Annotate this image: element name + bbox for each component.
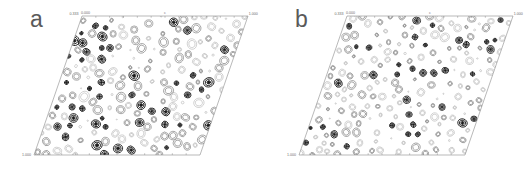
figure-container: a 0.3330.0001.0001.000c b 0.3330.0001.00… (0, 0, 529, 171)
svg-text:c: c (164, 11, 166, 15)
panel-a: a 0.3330.0001.0001.000c (0, 0, 264, 171)
svg-text:0.333: 0.333 (335, 12, 344, 16)
svg-text:0.000: 0.000 (81, 11, 90, 15)
svg-text:1.000: 1.000 (22, 153, 31, 157)
svg-text:1.000: 1.000 (249, 12, 258, 16)
svg-text:1.000: 1.000 (514, 12, 523, 16)
svg-text:0.333: 0.333 (70, 12, 79, 16)
panel-b: b 0.3330.0001.0001.000c (265, 0, 529, 171)
svg-text:0.000: 0.000 (346, 11, 355, 15)
svg-text:c: c (429, 11, 431, 15)
panel-a-contour-map: 0.3330.0001.0001.000c (0, 0, 264, 171)
panel-b-contour-map: 0.3330.0001.0001.000c (265, 0, 529, 171)
svg-text:1.000: 1.000 (287, 153, 296, 157)
